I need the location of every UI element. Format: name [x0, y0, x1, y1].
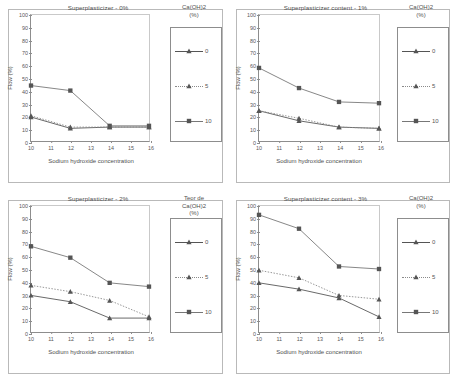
legend-marker-icon — [175, 47, 203, 55]
legend-item-5[interactable]: 5 — [402, 271, 444, 283]
legend-item-5[interactable]: 5 — [175, 271, 217, 283]
x-tick-label: 12 — [68, 141, 74, 151]
series-line — [31, 86, 149, 126]
chart-grid: Superplasticizer - 0% 010203040506070809… — [0, 0, 455, 382]
y-axis-label-2: Flow (%) — [7, 257, 13, 281]
y-tick-label: 100 — [19, 203, 31, 209]
legend-marker-icon — [175, 273, 203, 281]
data-point-marker — [297, 227, 301, 231]
legend-marker-icon — [402, 82, 430, 90]
legend-title-2: Teor deCa(OH)2(%) — [166, 195, 222, 218]
data-point-marker — [337, 264, 341, 268]
legend-title-0: Ca(OH)2(%) — [166, 4, 222, 19]
legend-marker-icon — [402, 273, 430, 281]
y-tick-label: 20 — [250, 305, 259, 311]
plot-area-2: 010203040506070809010010111213141516 — [30, 205, 150, 333]
legend-label: 5 — [432, 83, 435, 89]
series-line — [259, 215, 379, 269]
y-tick-label: 50 — [22, 267, 31, 273]
y-tick-label: 10 — [250, 318, 259, 324]
series-line — [31, 246, 149, 286]
y-axis-label-3: Flow (%) — [235, 257, 241, 281]
y-axis-label-0: Flow (%) — [7, 66, 13, 90]
series-layer — [259, 206, 379, 332]
data-point-marker — [108, 124, 112, 128]
data-point-marker — [68, 289, 73, 294]
x-tick-label: 12 — [68, 332, 74, 342]
legend-item-10[interactable]: 10 — [402, 115, 444, 127]
legend-marker-icon — [402, 238, 430, 246]
legend-title-line: Ca(OH)2 — [166, 203, 222, 211]
y-tick-label: 90 — [250, 25, 259, 31]
legend-item-10[interactable]: 10 — [175, 115, 217, 127]
legend-item-5[interactable]: 5 — [402, 80, 444, 92]
x-tick-label: 11 — [277, 141, 283, 151]
x-tick-label: 13 — [88, 332, 94, 342]
y-tick-label: 30 — [22, 102, 31, 108]
data-point-marker — [147, 124, 151, 128]
x-axis-label-0: Sodium hydroxide concentration — [30, 158, 152, 164]
x-axis-label-2: Sodium hydroxide concentration — [30, 349, 152, 355]
legend-marker-icon — [175, 308, 203, 316]
legend-item-0[interactable]: 0 — [175, 45, 217, 57]
legend-title-line: (%) — [393, 203, 449, 211]
y-tick-label: 30 — [250, 102, 259, 108]
y-tick-label: 10 — [250, 127, 259, 133]
legend-label: 5 — [205, 83, 208, 89]
data-point-marker — [29, 244, 33, 248]
chart-panel-3: Superplasticizer content - 3% 0102030405… — [228, 191, 455, 382]
plot-area-3: 010203040506070809010010111213141516 — [258, 205, 380, 333]
legend-box-1: 0510 — [397, 27, 449, 142]
chart-panel-0: Superplasticizer - 0% 010203040506070809… — [0, 0, 228, 191]
x-tick-label: 11 — [48, 141, 54, 151]
x-tick-label: 10 — [256, 332, 262, 342]
data-point-marker — [68, 256, 72, 260]
y-tick-label: 10 — [22, 127, 31, 133]
y-tick-label: 80 — [22, 229, 31, 235]
data-point-marker — [256, 108, 261, 113]
data-point-marker — [257, 66, 261, 70]
legend-label: 5 — [432, 274, 435, 280]
legend-item-0[interactable]: 0 — [175, 236, 217, 248]
x-tick-label: 11 — [48, 332, 54, 342]
y-tick-label: 20 — [22, 305, 31, 311]
chart-panel-2: Superplasticizer - 2% 010203040506070809… — [0, 191, 228, 382]
legend-item-0[interactable]: 0 — [402, 45, 444, 57]
legend-title-line: (%) — [166, 12, 222, 20]
y-tick-label: 40 — [22, 89, 31, 95]
legend-item-0[interactable]: 0 — [402, 236, 444, 248]
series-line — [31, 117, 149, 128]
y-tick-label: 60 — [22, 63, 31, 69]
x-tick-label: 10 — [28, 332, 34, 342]
legend-label: 0 — [205, 48, 208, 54]
data-point-marker — [147, 284, 151, 288]
legend-label: 0 — [432, 48, 435, 54]
x-tick-label: 16 — [378, 141, 384, 151]
legend-marker-icon — [175, 82, 203, 90]
legend-title-line: Ca(OH)2 — [393, 195, 449, 203]
data-point-marker — [68, 88, 72, 92]
chart-title-0: Superplasticizer - 0% — [32, 4, 164, 11]
series-layer — [259, 15, 379, 141]
x-tick-label: 15 — [128, 332, 134, 342]
series-layer — [31, 206, 149, 332]
x-tick-label: 15 — [358, 332, 364, 342]
legend-label: 0 — [432, 239, 435, 245]
legend-label: 10 — [205, 118, 212, 124]
data-point-marker — [297, 86, 301, 90]
legend-item-10[interactable]: 10 — [402, 306, 444, 318]
legend-box-2: 0510 — [170, 218, 222, 333]
data-point-marker — [108, 281, 112, 285]
y-tick-label: 50 — [250, 76, 259, 82]
legend-item-5[interactable]: 5 — [175, 80, 217, 92]
series-line — [259, 270, 379, 299]
y-tick-label: 70 — [250, 241, 259, 247]
y-tick-label: 70 — [250, 50, 259, 56]
x-tick-label: 15 — [358, 141, 364, 151]
series-line — [259, 283, 379, 317]
plot-area-0: 010203040506070809010010111213141516 — [30, 14, 150, 142]
legend-item-10[interactable]: 10 — [175, 306, 217, 318]
y-tick-label: 40 — [250, 89, 259, 95]
series-line — [259, 68, 379, 103]
y-tick-label: 90 — [22, 25, 31, 31]
